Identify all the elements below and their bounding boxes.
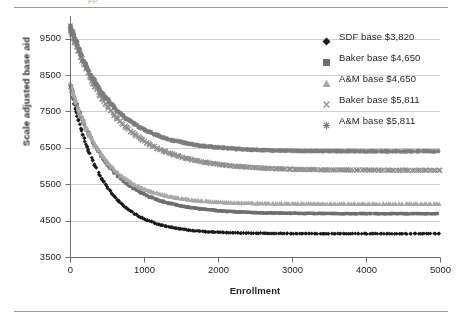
x-axis-label: Enrollment bbox=[70, 285, 440, 296]
legend-item-label: SDF base $3,820 bbox=[339, 31, 414, 42]
legend-item-label: A&M base $5,811 bbox=[339, 115, 415, 126]
legend-item: Baker base $4,650 bbox=[322, 51, 420, 63]
bottom-divider-rule bbox=[14, 311, 448, 312]
asterisk-marker-icon bbox=[322, 116, 331, 125]
legend-item-label: A&M base $4,650 bbox=[339, 73, 416, 84]
legend-item: Baker base $5,811 bbox=[322, 93, 420, 105]
triangle-marker-icon bbox=[322, 74, 331, 83]
legend-item-label: Baker base $5,811 bbox=[339, 94, 420, 105]
figure-container: pp Scale adjusted base aid Enrollment SD… bbox=[0, 0, 462, 320]
square-marker-icon bbox=[322, 53, 331, 62]
legend-item: A&M base $4,650 bbox=[322, 72, 420, 84]
legend-item: SDF base $3,820 bbox=[322, 30, 420, 42]
chart-legend: SDF base $3,820Baker base $4,650A&M base… bbox=[322, 30, 420, 126]
y-axis-label: Scale adjusted base aid bbox=[21, 22, 32, 162]
legend-item-label: Baker base $4,650 bbox=[339, 52, 420, 63]
legend-item: A&M base $5,811 bbox=[322, 114, 420, 126]
diamond-marker-icon bbox=[322, 32, 331, 41]
cross-marker-icon bbox=[322, 95, 331, 104]
